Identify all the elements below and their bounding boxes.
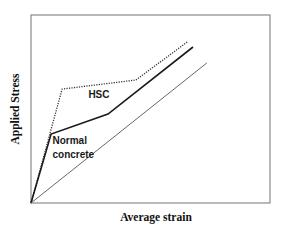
stress-strain-chart: HSCNormalconcrete Applied Stress Average… <box>0 0 283 229</box>
annotation-normal: Normal <box>53 135 88 146</box>
x-axis-label: Average strain <box>120 211 192 224</box>
y-axis-label: Applied Stress <box>9 73 22 145</box>
annotation-hsc: HSC <box>88 89 109 100</box>
annotation-concrete: concrete <box>53 149 95 160</box>
series-line-hsc <box>31 42 187 203</box>
series-line-reference <box>31 63 207 203</box>
series-line-normal-concrete <box>31 47 193 203</box>
series-layer <box>31 42 207 203</box>
